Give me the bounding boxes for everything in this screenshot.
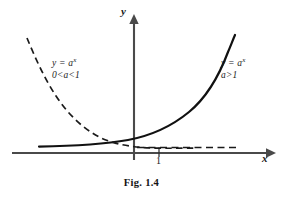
annotation-increasing-curve: y = ax a>1 (221, 59, 245, 83)
y-axis-arrowhead (129, 14, 138, 24)
x-axis-tick-label-1: 1 (156, 156, 161, 167)
annotation-increasing-equation-exponent: x (242, 56, 245, 64)
figure-caption: Fig. 1.4 (0, 177, 283, 188)
annotation-increasing-equation-base: y = a (221, 58, 242, 68)
annotation-increasing-condition: a>1 (221, 71, 245, 83)
x-axis-label: x (262, 153, 268, 165)
curve-decreasing-exponential (27, 38, 196, 148)
x-axis (12, 148, 276, 157)
exponential-graph-plot (0, 0, 283, 201)
annotation-decreasing-curve: y = ax 0<a<1 (52, 59, 80, 83)
curve-increasing-exponential (39, 35, 235, 147)
figure-container: y x 1 y = ax 0<a<1 y = ax a>1 Fig. 1.4 (0, 0, 283, 201)
annotation-decreasing-condition: 0<a<1 (52, 71, 80, 83)
y-axis-label: y (121, 6, 126, 18)
annotation-decreasing-equation-base: y = a (52, 58, 73, 68)
condition-upper-bound: 1 (75, 70, 80, 80)
annotation-decreasing-equation-exponent: x (73, 56, 76, 64)
condition-bound-increasing: 1 (233, 70, 238, 80)
